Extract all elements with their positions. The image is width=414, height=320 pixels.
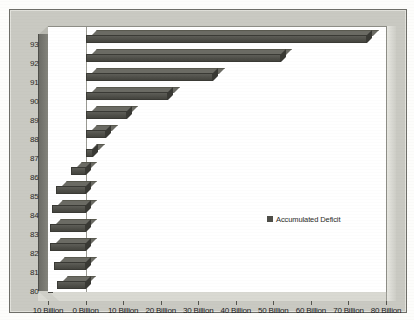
category-label-81: 81 [30, 268, 48, 278]
bar-93 [86, 30, 373, 43]
bar-front-face [57, 281, 85, 289]
legend: Accumulated Deficit [267, 213, 340, 225]
chart-frame: 9392919089888786858483828180 Accumulated… [9, 9, 407, 313]
bar-80 [57, 276, 90, 289]
category-label-89: 89 [30, 116, 48, 126]
legend-swatch-accumulated-deficit [267, 216, 273, 222]
bar-front-face [86, 149, 94, 157]
category-label-92: 92 [30, 59, 48, 69]
legend-label-accumulated-deficit: Accumulated Deficit [276, 215, 340, 224]
bar-front-face [86, 130, 107, 138]
value-label-4: 30 Billion [183, 305, 213, 316]
value-label-9: 80 Billion [371, 305, 401, 316]
bar-82 [50, 238, 91, 251]
zero-gridline [86, 27, 87, 292]
bar-85 [56, 181, 91, 194]
bar-front-face [86, 92, 169, 100]
bar-front-face [86, 73, 214, 81]
right-panel-edge [386, 26, 396, 301]
category-label-87: 87 [30, 154, 48, 164]
category-label-85: 85 [30, 192, 48, 202]
bar-front-face [52, 205, 86, 213]
value-label-5: 40 Billion [221, 305, 251, 316]
bar-90 [86, 87, 174, 100]
bar-89 [86, 106, 132, 119]
category-label-84: 84 [30, 211, 48, 221]
bar-front-face [50, 243, 86, 251]
bar-front-face [54, 262, 86, 270]
bar-front-face [86, 111, 127, 119]
value-axis: 10 Billion0 Billion10 Billion20 Billion3… [20, 301, 414, 317]
plot-floor [38, 291, 386, 301]
value-label-2: 10 Billion [108, 305, 138, 316]
value-label-6: 50 Billion [258, 305, 288, 316]
category-label-91: 91 [30, 78, 48, 88]
bar-front-face [71, 167, 86, 175]
bar-front-face [50, 224, 86, 232]
value-label-1: 0 Billion [72, 305, 98, 316]
category-label-90: 90 [30, 97, 48, 107]
bar-92 [86, 49, 286, 62]
plot-area [48, 26, 387, 292]
bar-84 [52, 200, 91, 213]
category-label-83: 83 [30, 230, 48, 240]
bar-86 [71, 162, 91, 175]
category-axis: 9392919089888786858483828180 [30, 26, 48, 301]
figure: 9392919089888786858483828180 Accumulated… [0, 0, 414, 320]
bar-front-face [56, 186, 86, 194]
category-label-86: 86 [30, 173, 48, 183]
value-label-7: 60 Billion [296, 305, 326, 316]
bar-81 [54, 257, 91, 270]
category-label-80: 80 [30, 287, 48, 297]
bar-83 [50, 219, 91, 232]
bar-front-face [86, 35, 368, 43]
value-label-8: 70 Billion [333, 305, 363, 316]
bar-87 [86, 144, 99, 157]
bar-88 [86, 125, 112, 138]
category-label-88: 88 [30, 135, 48, 145]
bar-front-face [86, 54, 281, 62]
bar-91 [86, 68, 219, 81]
value-label-0: 10 Billion [33, 305, 63, 316]
value-label-3: 20 Billion [145, 305, 175, 316]
category-label-82: 82 [30, 249, 48, 259]
category-label-93: 93 [30, 40, 48, 50]
plot-3d-container: 9392919089888786858483828180 Accumulated… [20, 16, 394, 304]
